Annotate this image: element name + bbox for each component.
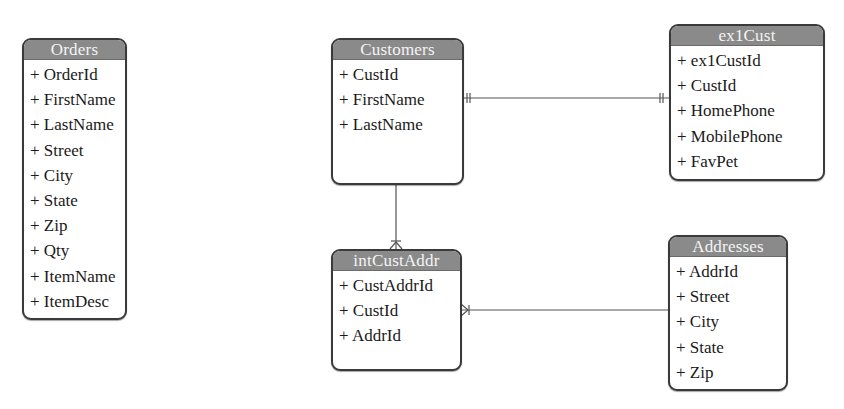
entity-intcustaddr[interactable]: intCustAddr + CustAddrId + CustId + Addr… [331,249,462,371]
attribute: + CustId [339,298,460,323]
entity-orders[interactable]: Orders + OrderId + FirstName + LastName … [22,38,127,320]
attribute: + ex1CustId [677,48,823,73]
attribute-list: + ex1CustId + CustId + HomePhone + Mobil… [671,46,823,174]
entity-ex1cust[interactable]: ex1Cust + ex1CustId + CustId + HomePhone… [669,24,825,181]
entity-customers[interactable]: Customers + CustId + FirstName + LastNam… [331,38,464,185]
attribute: + State [30,188,125,213]
entity-title: Addresses [670,237,786,257]
attribute: + HomePhone [677,98,823,123]
attribute: + Zip [676,360,786,385]
attribute: + FavPet [677,149,823,174]
attribute: + Street [30,138,125,163]
attribute: + CustAddrId [339,273,460,298]
attribute-list: + OrderId + FirstName + LastName + Stree… [24,60,125,314]
entity-title: Customers [333,40,462,60]
relationship-customers-ex1cust [463,93,669,103]
attribute: + CustId [339,62,462,87]
attribute: + FirstName [339,87,462,112]
relationship-addresses-intcustaddr [461,304,668,316]
attribute: + ItemName [30,264,125,289]
attribute: + LastName [339,112,462,137]
attribute: + AddrId [676,259,786,284]
attribute: + ItemDesc [30,289,125,314]
entity-title: ex1Cust [671,26,823,46]
attribute: + AddrId [339,323,460,348]
entity-title: intCustAddr [333,251,460,271]
attribute-list: + CustAddrId + CustId + AddrId [333,271,460,349]
attribute-list: + AddrId + Street + City + State + Zip [670,257,786,385]
attribute: + City [30,163,125,188]
attribute-list: + CustId + FirstName + LastName [333,60,462,138]
attribute: + FirstName [30,87,125,112]
attribute: + State [676,335,786,360]
attribute: + CustId [677,73,823,98]
attribute: + City [676,309,786,334]
attribute: + MobilePhone [677,124,823,149]
entity-addresses[interactable]: Addresses + AddrId + Street + City + Sta… [668,235,788,391]
attribute: + Zip [30,213,125,238]
attribute: + Street [676,284,786,309]
relationship-customers-intcustaddr [390,184,402,249]
attribute: + LastName [30,112,125,137]
entity-title: Orders [24,40,125,60]
attribute: + OrderId [30,62,125,87]
attribute: + Qty [30,238,125,263]
